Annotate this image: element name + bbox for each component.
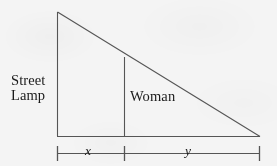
light-ray-hypotenuse-line bbox=[58, 12, 261, 137]
x-distance-label: x bbox=[85, 144, 91, 158]
woman-label: Woman bbox=[130, 89, 175, 104]
street-lamp-label-line2: Lamp bbox=[11, 88, 45, 103]
shadow-diagram-figure: Street Lamp Woman x y bbox=[0, 0, 277, 166]
street-lamp-label: Street Lamp bbox=[11, 73, 45, 103]
street-lamp-label-line1: Street bbox=[11, 73, 45, 88]
y-distance-label: y bbox=[185, 144, 191, 158]
